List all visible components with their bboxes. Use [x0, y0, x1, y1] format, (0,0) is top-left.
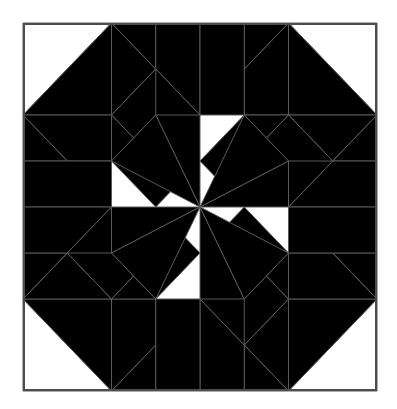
quilt-patches	[23, 23, 377, 391]
side-medium-block-r3	[156, 299, 200, 391]
side-medium-block-r2	[289, 207, 378, 253]
quilt-illustration	[0, 0, 397, 409]
side-medium-block-r1	[200, 23, 244, 115]
side-medium-block-r0	[23, 161, 112, 207]
quilt-figure	[0, 0, 397, 409]
